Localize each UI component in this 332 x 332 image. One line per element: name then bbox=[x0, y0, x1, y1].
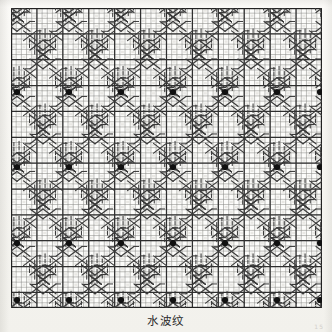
page-background: 水波纹 15 bbox=[0, 0, 332, 332]
page-number: 15 bbox=[314, 323, 324, 330]
chart-caption: 水波纹 bbox=[0, 312, 332, 328]
stitch-chart-container bbox=[11, 8, 322, 308]
stitch-chart bbox=[11, 8, 322, 308]
stitch-chart-canvas bbox=[11, 8, 322, 308]
